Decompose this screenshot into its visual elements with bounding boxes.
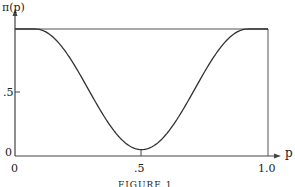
y-axis-label: π(p) [2, 2, 25, 13]
y-tick-label-half: .5 [3, 87, 14, 98]
y-tick-label-zero: 0 [5, 147, 12, 158]
x-tick-label-one: 1.0 [258, 163, 276, 174]
x-axis-arrow-icon [274, 154, 281, 159]
x-tick-label-half: .5 [134, 163, 145, 174]
x-axis-label: p [285, 148, 293, 159]
figure-caption: FIGURE 1 [118, 180, 173, 187]
chart-plot [0, 0, 295, 187]
pi-curve [15, 29, 268, 150]
x-tick-label-zero: 0 [11, 163, 18, 174]
